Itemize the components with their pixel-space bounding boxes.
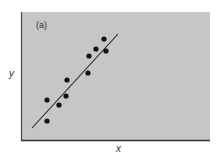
data-point (103, 48, 108, 53)
data-point (63, 93, 68, 98)
y-axis-label: y (8, 68, 15, 79)
x-axis-label: x (115, 143, 122, 154)
panel-label: (a) (36, 20, 47, 30)
data-point (101, 36, 106, 41)
data-point (44, 118, 49, 123)
data-point (64, 77, 69, 82)
data-point (44, 97, 49, 102)
scatter-chart: (a) x y (0, 0, 221, 159)
data-point (93, 46, 98, 51)
data-point (86, 53, 91, 58)
data-point (85, 70, 90, 75)
data-point (56, 102, 61, 107)
